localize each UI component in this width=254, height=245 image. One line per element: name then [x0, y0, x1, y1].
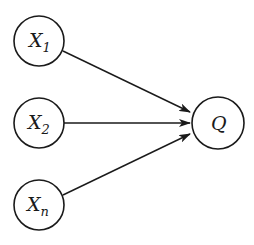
node-x2: X2	[14, 98, 64, 148]
node-x2-label: X	[26, 111, 43, 133]
edge-xn-q	[63, 134, 190, 195]
node-x2-subscript: 2	[41, 122, 50, 137]
diagram-canvas: X1 X2 Xn Q	[0, 0, 254, 245]
node-q-label: Q	[211, 112, 227, 134]
node-xn-label: X	[25, 193, 42, 215]
node-x1-label: X	[27, 29, 44, 51]
node-xn: Xn	[14, 180, 64, 230]
node-x1-subscript: 1	[43, 40, 51, 55]
node-xn-subscript: n	[41, 204, 49, 219]
node-q: Q	[192, 97, 244, 149]
edge-x1-q	[63, 51, 190, 112]
node-x1: X1	[14, 16, 64, 66]
